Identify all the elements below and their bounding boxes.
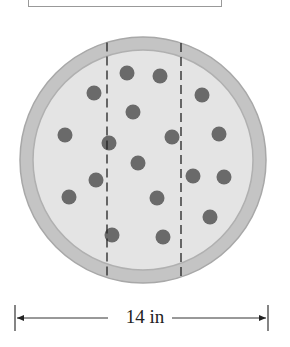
pepperoni	[203, 210, 218, 225]
pepperoni	[89, 173, 104, 188]
diameter-label: 14 in	[0, 306, 290, 328]
pepperoni	[156, 230, 171, 245]
pepperoni	[126, 105, 141, 120]
pepperoni	[120, 66, 135, 81]
diameter-text: 14 in	[118, 306, 173, 327]
pepperoni	[195, 88, 210, 103]
pepperoni	[150, 191, 165, 206]
pizza	[20, 37, 266, 283]
pepperoni	[165, 130, 180, 145]
pepperoni	[131, 156, 146, 171]
pepperoni	[186, 169, 201, 184]
pepperoni	[217, 170, 232, 185]
pepperoni	[87, 86, 102, 101]
pepperoni	[62, 190, 77, 205]
pepperoni	[153, 69, 168, 84]
pepperoni	[102, 136, 117, 151]
pizza-diagram	[0, 0, 290, 347]
pepperoni	[212, 127, 227, 142]
pepperoni	[58, 128, 73, 143]
